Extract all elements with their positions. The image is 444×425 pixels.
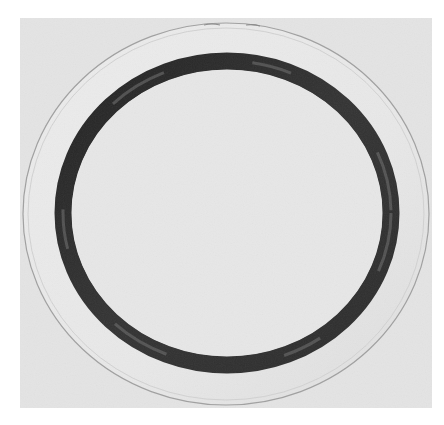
film-grain — [20, 18, 432, 408]
photograph — [0, 0, 444, 425]
